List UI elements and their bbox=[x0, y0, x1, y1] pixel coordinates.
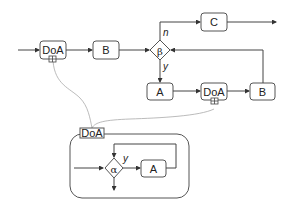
subprocess-title: DoA bbox=[81, 127, 103, 139]
svg-text:DoA: DoA bbox=[42, 44, 64, 56]
expand-link-2 bbox=[92, 109, 214, 128]
svg-text:C: C bbox=[210, 16, 218, 28]
svg-text:α: α bbox=[111, 164, 118, 175]
svg-text:DoA: DoA bbox=[203, 86, 225, 98]
flow-diagram: DoA B β n y C A DoA B bbox=[0, 0, 296, 207]
doa-task-1[interactable]: DoA bbox=[40, 41, 66, 62]
expand-link-1 bbox=[53, 61, 92, 128]
doa-task-2[interactable]: DoA bbox=[201, 83, 227, 104]
b-task-2[interactable]: B bbox=[250, 83, 275, 100]
svg-text:A: A bbox=[150, 163, 158, 175]
doa-subprocess: DoA bbox=[70, 127, 189, 198]
svg-text:β: β bbox=[157, 46, 163, 57]
c-task[interactable]: C bbox=[201, 13, 227, 31]
yes-label: y bbox=[162, 61, 169, 72]
yes-label: y bbox=[122, 153, 129, 164]
loop-back-arrow bbox=[171, 50, 263, 83]
no-label: n bbox=[163, 27, 169, 38]
a-task[interactable]: A bbox=[147, 83, 173, 100]
b-task-1[interactable]: B bbox=[93, 41, 119, 59]
svg-text:B: B bbox=[102, 44, 109, 56]
beta-gateway[interactable]: β bbox=[150, 40, 170, 60]
svg-text:B: B bbox=[259, 86, 266, 98]
inner-a-task[interactable]: A bbox=[141, 160, 166, 177]
svg-text:A: A bbox=[156, 86, 164, 98]
